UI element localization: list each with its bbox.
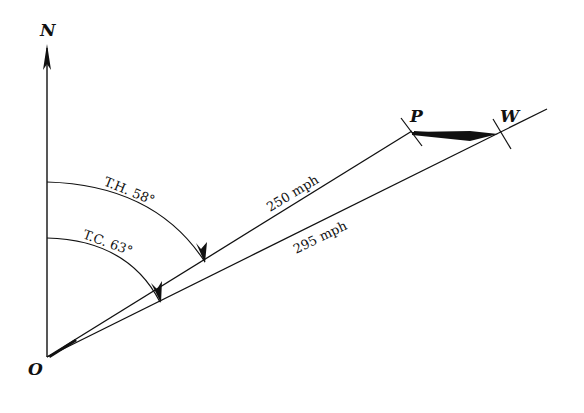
course-vector-line <box>47 109 547 357</box>
vector-diagram: N O P W T.H. 58° T.C. 63° 250 mph 295 mp… <box>0 0 584 413</box>
origin-label: O <box>28 359 43 379</box>
north-axis <box>43 44 51 357</box>
true-heading-label: T.H. 58° <box>102 174 157 208</box>
p-label: P <box>409 106 424 126</box>
true-course-label: T.C. 63° <box>81 227 135 259</box>
w-label: W <box>500 106 521 126</box>
true-heading-arrow-icon <box>196 242 207 263</box>
groundspeed-label: 295 mph <box>291 218 350 257</box>
north-label: N <box>39 20 57 40</box>
airspeed-label: 250 mph <box>264 172 322 215</box>
origin-thickening <box>49 339 77 358</box>
